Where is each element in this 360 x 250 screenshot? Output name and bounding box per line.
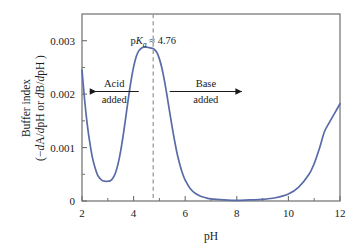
x-tick-label: 2 [79,207,85,219]
y-axis-title-line2: (−dA/dpH or dB/dpH ) [34,55,47,161]
x-axis-title: pH [204,230,218,243]
plot-frame-rect [82,14,340,201]
x-tick-label: 6 [182,207,188,219]
buffer-index-figure: 24681012 00.0010.0020.003 pKa ≈ 4.76 [0,0,360,250]
base-added-label-bottom: added [193,94,219,105]
buffer-index-chart: 24681012 00.0010.0020.003 pKa ≈ 4.76 [0,0,360,250]
x-axis-tick-labels: 24681012 [79,207,345,219]
base-added-annotation: Base added [170,78,242,105]
plot-frame [82,14,340,201]
x-tick-label: 12 [335,207,346,219]
acid-added-label-bottom: added [102,94,128,105]
data-series-group [82,47,340,200]
y-axis-title: Buffer index (−dA/dpH or dB/dpH ) [20,55,47,161]
acid-added-label-top: Acid [104,78,125,89]
x-tick-label: 10 [283,207,295,219]
buffer-index-curve [82,47,340,200]
y-tick-label: 0 [70,195,76,207]
x-tick-label: 4 [131,207,137,219]
y-tick-label: 0.003 [50,35,75,47]
base-added-label-top: Base [196,78,217,89]
y-axis-title-line1: Buffer index [20,79,32,137]
y-axis-tick-labels: 00.0010.0020.003 [50,35,75,207]
x-tick-label: 8 [234,207,240,219]
y-tick-label: 0.001 [50,142,75,154]
y-tick-label: 0.002 [50,88,75,100]
